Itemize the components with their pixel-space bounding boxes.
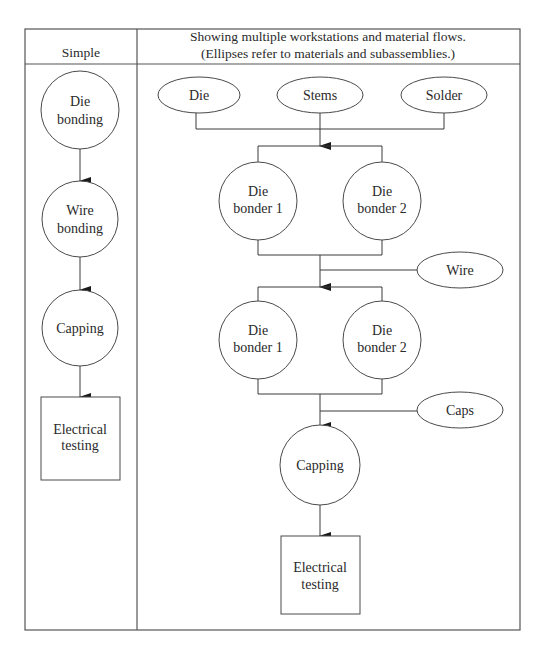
svg-text:Caps: Caps [446,403,474,418]
svg-text:bonder 1: bonder 1 [233,340,282,355]
split-connector [258,287,382,302]
svg-text:Wire: Wire [66,203,93,218]
svg-text:bonding: bonding [57,221,103,236]
svg-text:Wire: Wire [446,263,473,278]
svg-text:bonder 2: bonder 2 [357,201,406,216]
simple-step-capping: Capping [42,290,118,366]
svg-text:Die: Die [248,184,268,199]
simple-step-wire-bonding: Wire bonding [42,181,118,257]
simple-step-die-bonding: Die bonding [41,71,119,149]
merge-connector [258,240,382,255]
svg-text:Solder: Solder [426,88,463,103]
stage1-die-bonder-2: Die bonder 2 [343,162,421,240]
material-die: Die [158,77,240,113]
process-flow-diagram: Simple Showing multiple workstations and… [0,0,544,653]
svg-text:Die: Die [248,323,268,338]
material-wire: Wire [417,252,503,288]
stage2-die-bonder-2: Die bonder 2 [343,301,421,379]
svg-text:Capping: Capping [296,458,343,473]
multi-electrical-testing: Electrical testing [281,536,360,614]
stage2-die-bonder-1: Die bonder 1 [219,301,297,379]
svg-text:testing: testing [61,438,98,453]
material-solder: Solder [401,77,487,113]
svg-text:Die: Die [70,94,90,109]
svg-text:Die: Die [372,184,392,199]
svg-text:bonder 1: bonder 1 [233,201,282,216]
header-multi-line1: Showing multiple workstations and materi… [190,29,466,44]
svg-text:Die: Die [372,323,392,338]
svg-text:Capping: Capping [56,321,103,336]
svg-text:bonding: bonding [57,112,103,127]
stage1-die-bonder-1: Die bonder 1 [219,162,297,240]
svg-text:Stems: Stems [303,88,337,103]
svg-text:Electrical: Electrical [53,422,107,437]
split-connector [258,146,382,162]
material-caps: Caps [417,392,503,428]
header-simple: Simple [62,45,100,60]
svg-text:Die: Die [189,88,209,103]
svg-text:testing: testing [301,577,338,592]
svg-text:Electrical: Electrical [293,560,347,575]
simple-step-electrical-testing: Electrical testing [41,397,120,480]
merge-connector [258,379,382,394]
header-multi-line2: (Ellipses refer to materials and subasse… [201,46,455,61]
material-stems: Stems [277,77,363,113]
svg-text:bonder 2: bonder 2 [357,340,406,355]
multi-capping: Capping [280,425,360,505]
